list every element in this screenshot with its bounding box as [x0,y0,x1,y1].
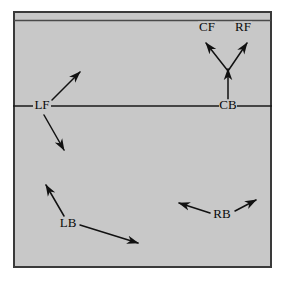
panel-background [14,12,271,267]
node-cb[interactable]: CB [219,97,237,112]
vector-field-diagram: CFRFLFCBLBRB [0,0,289,281]
node-rb[interactable]: RB [213,206,231,221]
node-label-rb: RB [213,206,231,221]
panel-group [14,12,271,267]
node-rf[interactable]: RF [234,19,252,34]
node-lb[interactable]: LB [59,215,77,230]
node-label-lb: LB [60,215,77,230]
node-label-lf: LF [34,97,49,112]
node-lf[interactable]: LF [33,97,51,112]
diagram-canvas: CFRFLFCBLBRB [0,0,289,281]
node-label-cb: CB [219,97,237,112]
node-label-rf: RF [235,19,251,34]
node-label-cf: CF [199,19,215,34]
node-cf[interactable]: CF [198,19,216,34]
